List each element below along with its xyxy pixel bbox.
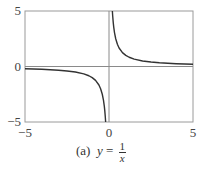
x-tick-5: 5 <box>190 125 197 140</box>
caption-denominator: x <box>119 153 127 164</box>
caption-equals: = <box>106 143 113 158</box>
curve-branch-negative <box>25 69 106 122</box>
x-tick-0: 0 <box>106 125 113 140</box>
caption-variable: y <box>97 143 103 158</box>
y-tick-5: 5 <box>15 3 22 18</box>
figure-caption: (a) y = 1 x <box>0 141 202 164</box>
plot: 5 0 −5 −5 0 5 <box>0 0 202 140</box>
curve-branch-positive <box>112 11 193 64</box>
x-tick-neg5: −5 <box>18 125 32 140</box>
caption-fraction: 1 x <box>119 141 127 164</box>
y-tick-0: 0 <box>15 59 22 74</box>
caption-label: (a) <box>76 143 90 158</box>
